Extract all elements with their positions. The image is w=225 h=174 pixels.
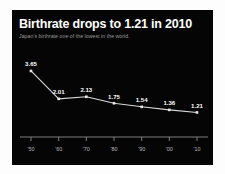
x-axis-tick-label: '50 — [27, 146, 34, 152]
data-point-marker[interactable] — [85, 95, 88, 98]
x-axis-tick-label: '70 — [83, 146, 90, 152]
data-point-marker[interactable] — [30, 70, 33, 73]
data-point-label: 2.13 — [80, 86, 92, 93]
x-axis-tick-label: '90 — [138, 146, 145, 152]
x-axis-tick-label: '00 — [166, 146, 173, 152]
data-point-marker[interactable] — [113, 102, 116, 105]
data-point-marker[interactable] — [140, 106, 143, 109]
chart-panel: Birthrate drops to 1.21 in 2010 Japan's … — [12, 10, 213, 165]
data-point-label: 3.65 — [25, 60, 37, 67]
chart-subtitle: Japan's birthrate one of the lowest in t… — [19, 33, 130, 40]
data-point-label: 1.54 — [136, 96, 148, 103]
x-axis-tick-label-group: '50'60'70'80'90'00'10 — [27, 146, 200, 152]
line-chart-plot: 3.652.012.131.751.541.361.21 '50'60'70'8… — [12, 43, 213, 165]
x-axis-tick-label: '80 — [110, 146, 117, 152]
x-axis-tick-label: '60 — [55, 146, 62, 152]
data-point-label: 2.01 — [53, 88, 65, 95]
data-point-label: 1.21 — [191, 102, 203, 109]
data-point-marker[interactable] — [196, 111, 199, 114]
chart-title: Birthrate drops to 1.21 in 2010 — [19, 18, 192, 31]
chart-page: Birthrate drops to 1.21 in 2010 Japan's … — [0, 0, 225, 174]
x-axis-tick-label: '10 — [193, 146, 200, 152]
data-point-marker[interactable] — [57, 98, 60, 101]
data-point-label: 1.36 — [163, 99, 175, 106]
x-axis-tick-group — [31, 137, 197, 141]
data-point-label: 1.75 — [108, 93, 120, 100]
data-point-marker[interactable] — [168, 109, 171, 112]
point-label-group: 3.652.012.131.751.541.361.21 — [25, 60, 203, 108]
